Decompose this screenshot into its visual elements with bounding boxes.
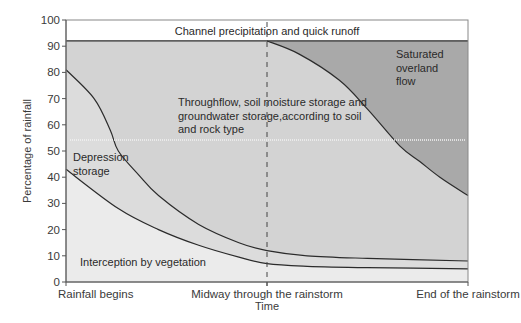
x-tick-label: End of the rainstorm (416, 288, 520, 300)
y-tick-label: 70 (47, 93, 60, 105)
label-interception: Interception by vegetation (80, 256, 206, 268)
y-tick-label: 60 (47, 119, 60, 131)
x-tick-label: Midway through the rainstorm (191, 288, 342, 300)
y-tick-label: 10 (47, 250, 60, 262)
y-tick-label: 90 (47, 40, 60, 52)
y-tick-label: 0 (54, 276, 60, 288)
x-axis-title: Time (255, 300, 279, 312)
y-tick-label: 50 (47, 145, 60, 157)
hydrograph-chart: 0102030405060708090100Rainfall beginsMid… (0, 0, 521, 323)
x-tick-label: Rainfall begins (58, 288, 134, 300)
y-tick-label: 30 (47, 197, 60, 209)
y-tick-label: 20 (47, 224, 60, 236)
y-axis-title: Percentage of rainfall (21, 99, 33, 203)
label-channel-precipitation: Channel precipitation and quick runoff (175, 25, 360, 37)
y-tick-label: 40 (47, 171, 60, 183)
y-tick-label: 80 (47, 66, 60, 78)
y-tick-label: 100 (41, 14, 60, 26)
